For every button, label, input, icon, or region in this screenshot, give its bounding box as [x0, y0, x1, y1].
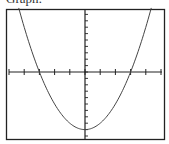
axes [9, 10, 162, 139]
parabola-chart [0, 0, 169, 144]
